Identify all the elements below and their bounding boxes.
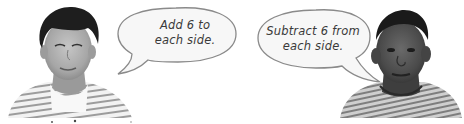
right-person-photo: [340, 0, 464, 124]
left-speech-line2: each side.: [142, 33, 228, 48]
bottom-edge-marks: [0, 116, 464, 124]
illustration-scene: Add 6 to each side. Subtract 6 from each…: [0, 0, 464, 124]
left-speech-text: Add 6 to each side.: [142, 18, 228, 48]
left-speech-line1: Add 6 to: [142, 18, 228, 33]
